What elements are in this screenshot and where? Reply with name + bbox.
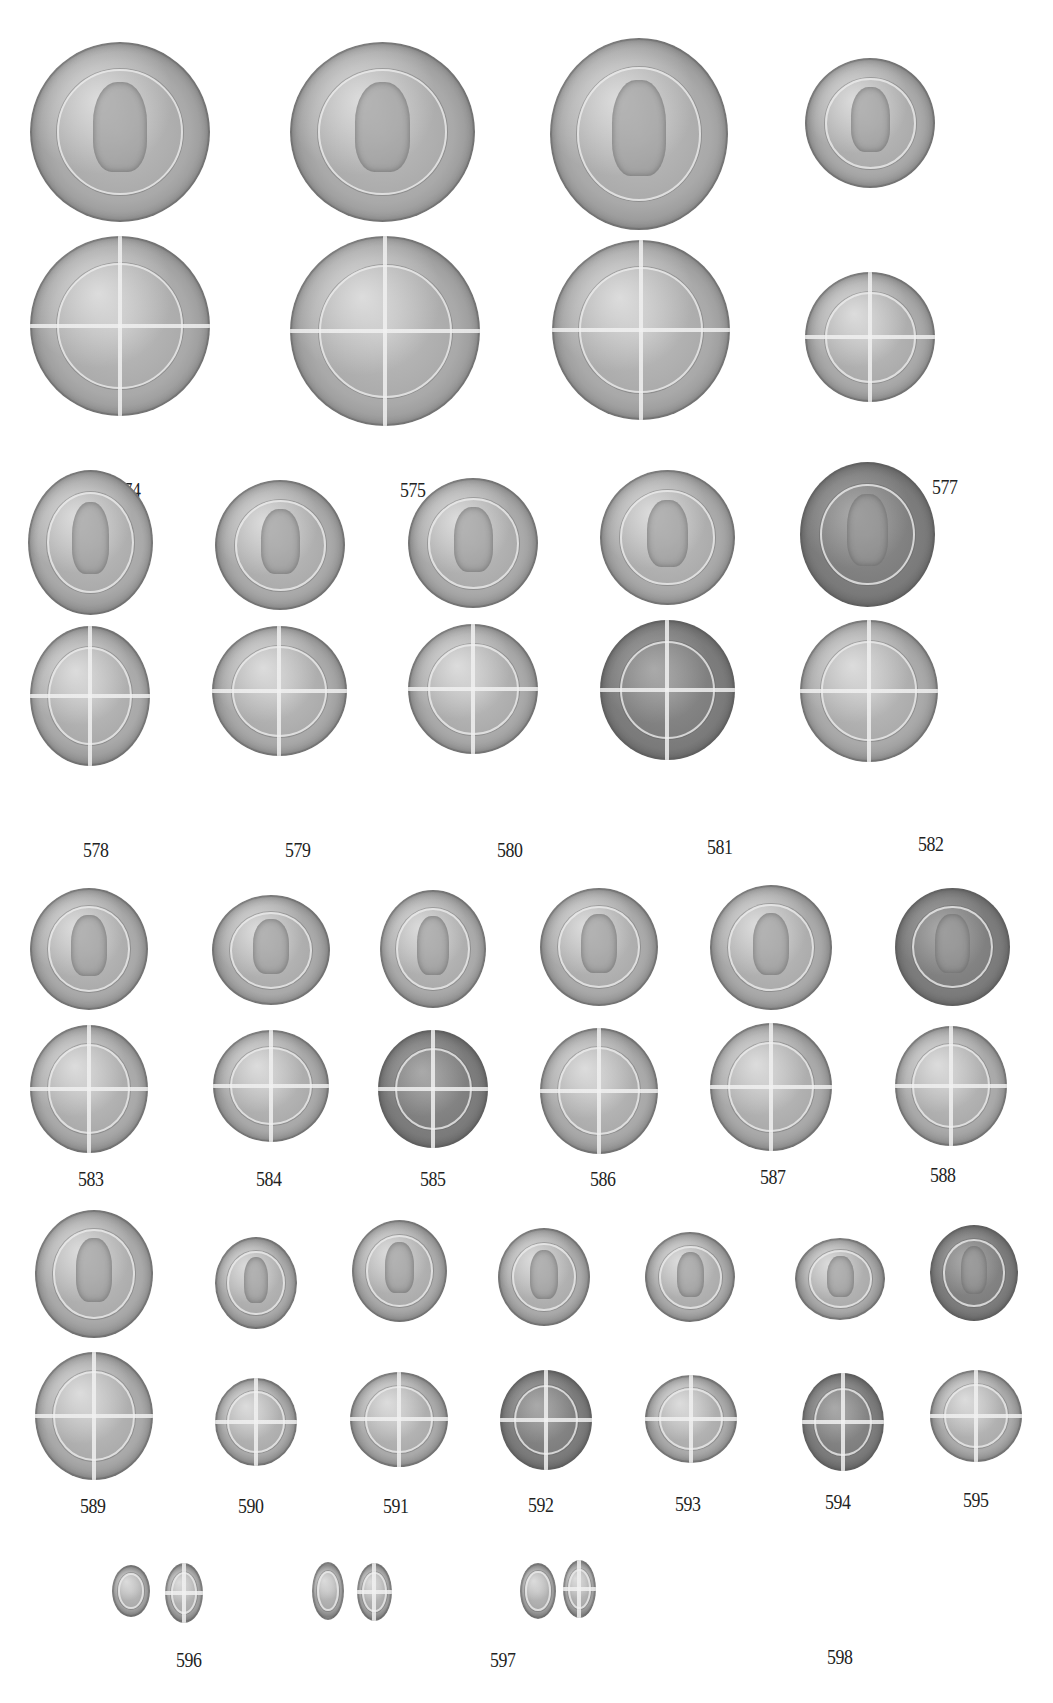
- coin-obverse-image: [520, 1563, 556, 1619]
- coin-reverse-image: [600, 620, 735, 760]
- coin-reverse-image: [552, 240, 730, 420]
- catalogue-number: 594: [825, 1490, 851, 1515]
- coin-reverse-image: [212, 626, 347, 756]
- coin-reverse-image: [357, 1563, 392, 1621]
- coin-reverse-image: [500, 1370, 592, 1470]
- coin-reverse-image: [930, 1370, 1022, 1462]
- coin-obverse-image: [645, 1232, 735, 1322]
- coin-obverse-image: [408, 478, 538, 608]
- coin-reverse-image: [408, 624, 538, 754]
- catalogue-number: 596: [176, 1648, 202, 1673]
- coin-obverse-image: [550, 38, 728, 230]
- coin-obverse-image: [35, 1210, 153, 1338]
- catalogue-number: 590: [238, 1494, 264, 1519]
- catalogue-number: 585: [420, 1167, 446, 1192]
- coin-reverse-image: [805, 272, 935, 402]
- coin-obverse-image: [380, 890, 486, 1008]
- catalogue-number: 595: [963, 1488, 989, 1513]
- coin-obverse-image: [895, 888, 1010, 1006]
- catalogue-number: 575: [400, 478, 426, 503]
- coin-obverse-image: [30, 42, 210, 222]
- catalogue-number: 578: [83, 838, 109, 863]
- coin-reverse-image: [30, 1025, 148, 1153]
- coin-obverse-image: [710, 885, 832, 1010]
- coin-obverse-image: [212, 895, 330, 1005]
- catalogue-number: 589: [80, 1494, 106, 1519]
- coin-reverse-image: [540, 1028, 658, 1154]
- catalogue-number: 584: [256, 1167, 282, 1192]
- catalogue-number: 580: [497, 838, 523, 863]
- coin-reverse-image: [895, 1026, 1007, 1146]
- catalogue-number: 593: [675, 1492, 701, 1517]
- catalogue-number: 582: [918, 832, 944, 857]
- coin-obverse-image: [600, 470, 735, 605]
- catalogue-number: 586: [590, 1167, 616, 1192]
- coin-reverse-image: [165, 1563, 203, 1623]
- coin-reverse-image: [350, 1372, 448, 1467]
- coin-obverse-image: [215, 1237, 297, 1329]
- catalogue-number: 581: [707, 835, 733, 860]
- catalogue-number: 592: [528, 1493, 554, 1518]
- catalogue-number: 579: [285, 838, 311, 863]
- coin-obverse-image: [215, 480, 345, 610]
- coin-obverse-image: [498, 1228, 590, 1326]
- catalogue-number: 597: [490, 1648, 516, 1673]
- coin-reverse-image: [563, 1560, 596, 1618]
- coin-obverse-image: [930, 1225, 1018, 1321]
- coin-obverse-image: [352, 1220, 447, 1322]
- coin-obverse-image: [805, 58, 935, 188]
- coin-reverse-image: [30, 236, 210, 416]
- coin-reverse-image: [645, 1375, 737, 1463]
- coin-obverse-image: [795, 1238, 885, 1320]
- coin-obverse-image: [800, 462, 935, 607]
- coin-reverse-image: [378, 1030, 488, 1148]
- coin-obverse-image: [28, 470, 153, 615]
- coin-obverse-image: [290, 42, 475, 222]
- catalogue-number: 591: [383, 1494, 409, 1519]
- coin-reverse-image: [710, 1023, 832, 1151]
- coin-obverse-image: [112, 1565, 150, 1617]
- coin-reverse-image: [30, 626, 150, 766]
- catalogue-number: 598: [827, 1645, 853, 1670]
- catalogue-number: 577: [932, 475, 958, 500]
- coin-reverse-image: [290, 236, 480, 426]
- coin-reverse-image: [213, 1030, 329, 1142]
- coin-reverse-image: [802, 1373, 884, 1471]
- coin-obverse-image: [30, 888, 148, 1010]
- catalogue-number: 587: [760, 1165, 786, 1190]
- coin-reverse-image: [35, 1352, 153, 1480]
- coin-reverse-image: [215, 1378, 297, 1466]
- catalogue-number: 583: [78, 1167, 104, 1192]
- coin-obverse-image: [312, 1562, 344, 1620]
- coin-reverse-image: [800, 620, 938, 762]
- coin-obverse-image: [540, 888, 658, 1006]
- catalogue-number: 588: [930, 1163, 956, 1188]
